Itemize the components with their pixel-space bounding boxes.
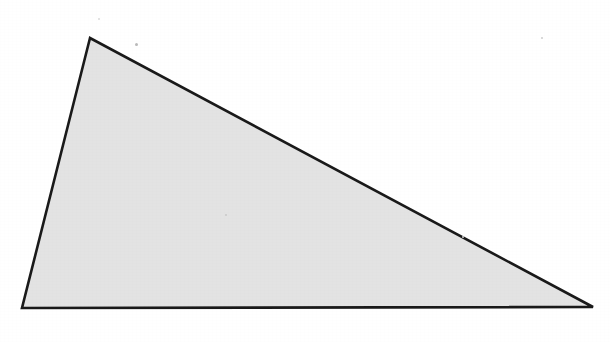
triangle-diagram xyxy=(0,0,610,342)
scalene-triangle-shape xyxy=(22,38,593,308)
figure-canvas: Scalene triangle xyxy=(0,0,610,342)
